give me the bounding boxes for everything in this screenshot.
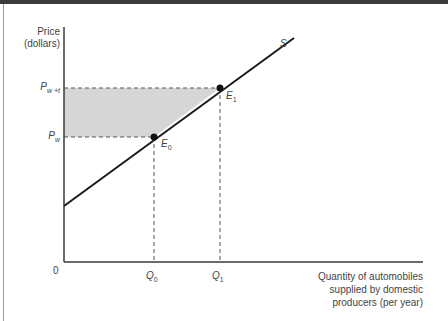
e0-sub: 0 (168, 144, 172, 151)
pwt-main: P (40, 81, 47, 92)
pw-main: P (48, 130, 55, 141)
y-title-line1: Price (14, 26, 60, 38)
supply-label: S (280, 38, 287, 50)
e0-main: E (161, 138, 168, 149)
q1-label: Q1 (212, 270, 224, 286)
pw-sub: w (55, 136, 60, 143)
y-axis-title: Price (dollars) (14, 26, 60, 50)
q0-label: Q0 (146, 270, 158, 286)
q0-main: Q (146, 270, 154, 281)
q0-sub: 0 (154, 276, 158, 283)
e1-main: E (226, 90, 233, 101)
pwt-sub: w +t (47, 87, 60, 94)
e1-label: E1 (226, 90, 237, 106)
y-title-line2: (dollars) (14, 38, 60, 50)
e1-sub: 1 (233, 96, 237, 103)
shaded-area (64, 88, 220, 137)
x-axis-title: Quantity of automobiles supplied by dome… (300, 270, 423, 309)
x-title-line1: Quantity of automobiles (300, 270, 423, 283)
origin-label: 0 (53, 265, 59, 277)
q1-main: Q (212, 270, 220, 281)
point-e0 (151, 134, 158, 141)
point-e1 (217, 85, 224, 92)
q1-sub: 1 (220, 276, 224, 283)
pwt-label: Pw +t (22, 81, 60, 97)
pw-label: Pw (22, 130, 60, 146)
e0-label: E0 (161, 138, 172, 154)
x-title-line3: producers (per year) (300, 296, 423, 309)
x-title-line2: supplied by domestic (300, 283, 423, 296)
